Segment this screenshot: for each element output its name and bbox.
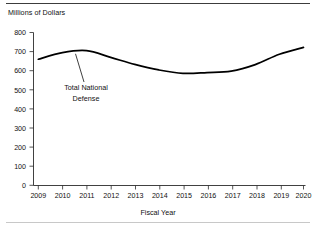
x-tick-label: 2011 — [79, 192, 94, 200]
x-tick-label: 2018 — [249, 192, 265, 200]
y-tick-label: 300 — [14, 125, 26, 133]
y-tick-label: 800 — [14, 29, 26, 37]
y-tick-label: 0 — [22, 182, 26, 190]
y-tick-label: 400 — [14, 106, 26, 114]
y-tick-label: 600 — [14, 67, 26, 75]
x-tick-label: 2016 — [201, 192, 217, 200]
axis-lines — [34, 33, 306, 186]
x-tick-label: 2019 — [273, 192, 289, 200]
x-tick-label: 2015 — [176, 192, 192, 200]
bottom-divider-rule — [6, 222, 310, 223]
y-tick-label: 700 — [14, 48, 26, 56]
y-tick-label: 500 — [14, 87, 26, 95]
x-tick-label: 2014 — [152, 192, 168, 200]
x-tick-label: 2009 — [30, 192, 46, 200]
y-tick-labels: 800 700 600 500 400 300 200 100 0 — [14, 29, 26, 190]
series-line-total-national-defense — [38, 47, 303, 73]
x-tick-label: 2013 — [128, 192, 144, 200]
y-tick-marks — [30, 33, 34, 186]
x-axis-title: Fiscal Year — [0, 208, 316, 217]
y-tick-label: 100 — [14, 163, 26, 171]
x-tick-labels: 2009 2010 2011 2012 2013 2014 2015 2016 … — [30, 192, 311, 200]
x-tick-label: 2012 — [103, 192, 119, 200]
callout-leader-line — [76, 54, 85, 82]
y-tick-label: 200 — [14, 144, 26, 152]
callout-label-line2: Defense — [73, 94, 100, 103]
x-tick-label: 2020 — [296, 192, 312, 200]
plot-area: 800 700 600 500 400 300 200 100 0 — [0, 0, 316, 228]
chart-figure: Millions of Dollars 800 700 600 500 400 … — [0, 0, 316, 228]
x-tick-marks — [38, 186, 303, 190]
x-tick-label: 2010 — [55, 192, 71, 200]
x-tick-label: 2017 — [225, 192, 241, 200]
callout-label-line1: Total National — [64, 83, 108, 92]
